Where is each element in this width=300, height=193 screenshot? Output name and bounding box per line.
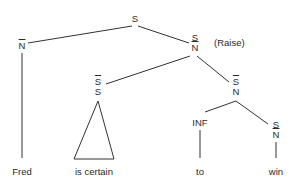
root-s-label: S	[132, 14, 138, 24]
raise-node-label: S N	[192, 33, 199, 53]
tree-lines	[0, 0, 300, 193]
word-win: win	[269, 166, 283, 177]
word-fred: Fred	[12, 166, 32, 177]
sbar-node-label: S N	[233, 77, 240, 97]
word-is-certain: is certain	[75, 166, 113, 177]
left-np-label: N	[19, 41, 26, 51]
inf-label: INF	[192, 118, 207, 128]
word-to: to	[196, 166, 204, 177]
vp-s-label: S S	[95, 77, 101, 97]
right-node-label: S N	[273, 120, 280, 140]
raise-annotation: (Raise)	[214, 37, 245, 48]
